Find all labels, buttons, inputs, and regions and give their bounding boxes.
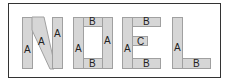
- o-top-label: B: [89, 17, 96, 27]
- n-diag-label: A: [38, 37, 45, 47]
- n-left-label: A: [24, 45, 31, 55]
- n-right-bar: [52, 17, 63, 69]
- o-left-label: A: [75, 44, 82, 54]
- n-right-label: A: [54, 29, 61, 39]
- o-bottom-label: B: [89, 59, 96, 69]
- o-right-label: A: [104, 36, 111, 46]
- e-bottom-label: B: [143, 59, 150, 69]
- e-spine-label: A: [124, 44, 131, 54]
- l-bottom-label: B: [193, 59, 200, 69]
- l-spine-label: A: [174, 43, 181, 53]
- e-top-label: B: [143, 17, 150, 27]
- n-diagonal-bar: [0, 0, 227, 84]
- e-middle-label: C: [137, 37, 144, 47]
